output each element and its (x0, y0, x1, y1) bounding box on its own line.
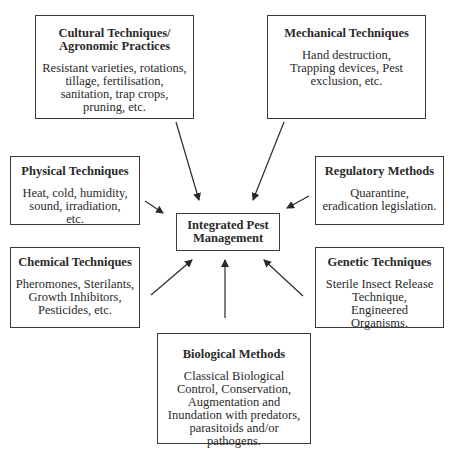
node-cultural-description: Resistant varieties, rotations, tillage,… (36, 62, 193, 114)
arrow-genetic (264, 260, 303, 296)
arrow-chemical (151, 260, 192, 295)
center-title: Integrated Pest Management (177, 219, 279, 245)
node-biological: Biological Methods Classical Biological … (157, 333, 311, 444)
node-physical-description: Heat, cold, humidity, sound, irradiation… (11, 187, 139, 226)
node-cultural: Cultural Techniques/ Agronomic Practices… (35, 15, 194, 119)
arrow-cultural (176, 122, 199, 200)
node-mechanical-title: Mechanical Techniques (268, 27, 425, 40)
node-regulatory-title: Regulatory Methods (316, 165, 443, 178)
node-chemical: Chemical Techniques Pheromones, Sterilan… (10, 247, 140, 328)
node-physical: Physical Techniques Heat, cold, humidity… (10, 156, 140, 225)
node-regulatory-description: Quarantine, eradication legislation. (316, 187, 443, 213)
node-regulatory: Regulatory Methods Quarantine, eradicati… (315, 156, 444, 225)
node-cultural-title: Cultural Techniques/ Agronomic Practices (36, 27, 193, 53)
node-biological-title: Biological Methods (158, 348, 310, 361)
node-biological-description: Classical Biological Control, Conservati… (158, 370, 310, 448)
node-chemical-description: Pheromones, Sterilants, Growth Inhibitor… (11, 278, 139, 317)
node-physical-title: Physical Techniques (11, 165, 139, 178)
node-genetic-title: Genetic Techniques (316, 256, 443, 269)
node-mechanical-description: Hand destruction, Trapping devices, Pest… (268, 49, 425, 88)
arrow-physical (145, 201, 163, 213)
node-integrated-pest-management: Integrated Pest Management (176, 213, 280, 251)
arrow-regulatory (287, 196, 309, 208)
node-genetic: Genetic Techniques Sterile Insect Releas… (315, 247, 444, 328)
node-genetic-description: Sterile Insect Release Technique, Engine… (316, 278, 443, 330)
node-chemical-title: Chemical Techniques (11, 256, 139, 269)
node-mechanical: Mechanical Techniques Hand destruction, … (267, 15, 426, 119)
arrow-mechanical (253, 122, 284, 200)
